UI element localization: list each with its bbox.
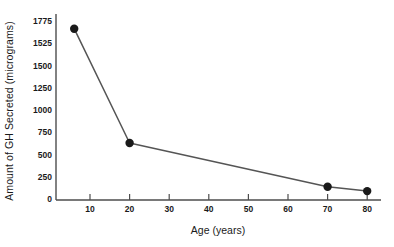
plot-area [0,0,394,247]
growth-hormone-line-chart: Amount of GH Secreted (micrograms) 17751… [0,0,394,247]
axis-spines [56,14,381,200]
data-point-marker [323,183,331,191]
series-polyline [74,29,367,191]
data-point-marker [363,187,371,195]
x-axis-title-label: Age (years) [191,224,245,236]
data-series-line [74,29,367,191]
x-axis-title: Age (years) [56,224,380,236]
x-axis-tick-marks [90,194,367,200]
data-point-marker [70,25,78,33]
data-series-markers [70,25,371,196]
data-point-marker [125,139,133,147]
